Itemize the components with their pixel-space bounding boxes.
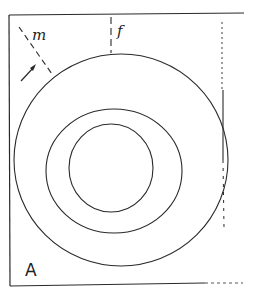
inner-circle bbox=[69, 124, 153, 212]
dashed-line-right-lower bbox=[223, 160, 224, 228]
panel-label-a: A bbox=[25, 260, 37, 280]
frame-left bbox=[9, 15, 10, 286]
label-m: m bbox=[32, 26, 46, 44]
diagram-canvas: m f A bbox=[0, 0, 253, 302]
frame-top bbox=[9, 13, 244, 15]
frame-bottom bbox=[10, 283, 205, 286]
arrow-icon bbox=[21, 64, 36, 81]
label-f: f bbox=[116, 22, 125, 40]
outer-circle bbox=[14, 54, 228, 266]
middle-circle bbox=[46, 109, 182, 233]
